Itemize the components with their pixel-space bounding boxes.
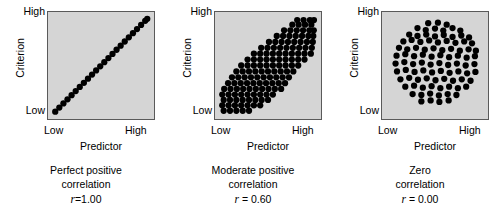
panel-perfect-positive: High Low Low High Criterion Predictor Pe… <box>0 0 167 212</box>
caption-r-value: r=1.00 <box>10 192 162 206</box>
y-axis-title: Criterion <box>14 16 26 100</box>
scatter-points-moderate-positive <box>215 12 321 119</box>
r-symbol: r <box>402 193 406 205</box>
caption-r-value: r = 0.60 <box>177 192 329 206</box>
y-tick-low: Low <box>26 104 45 116</box>
scatter-plot-zero-correlation <box>381 11 489 120</box>
x-tick-low: Low <box>44 124 63 136</box>
caption-line-2: correlation <box>10 177 162 191</box>
panel-zero-correlation: High Low Low High Criterion Predictor Ze… <box>334 0 501 212</box>
y-tick-low: Low <box>193 104 212 116</box>
x-tick-high: High <box>292 124 314 136</box>
scatter-points-perfect-positive <box>48 12 154 119</box>
r-number: =1.00 <box>75 193 102 205</box>
panel-caption-zero-correlation: Zero correlation r = 0.00 <box>344 163 496 206</box>
caption-line-1: Zero <box>344 163 496 177</box>
r-symbol: r <box>235 193 239 205</box>
x-axis-title: Predictor <box>47 140 155 152</box>
scatter-plot-moderate-positive <box>214 11 322 120</box>
caption-line-2: correlation <box>177 177 329 191</box>
caption-line-1: Perfect positive <box>10 163 162 177</box>
r-number: = 0.60 <box>242 193 272 205</box>
caption-line-1: Moderate positive <box>177 163 329 177</box>
scatter-plot-perfect-positive <box>47 11 155 120</box>
x-tick-low: Low <box>378 124 397 136</box>
y-axis-title: Criterion <box>348 16 360 100</box>
panel-caption-perfect-positive: Perfect positive correlation r=1.00 <box>10 163 162 206</box>
y-tick-high: High <box>357 5 379 17</box>
panel-moderate-positive: High Low Low High Criterion Predictor Mo… <box>167 0 334 212</box>
y-tick-high: High <box>190 5 212 17</box>
correlation-scatterplots-figure: High Low Low High Criterion Predictor Pe… <box>0 0 501 212</box>
y-tick-low: Low <box>360 104 379 116</box>
x-tick-low: Low <box>211 124 230 136</box>
panel-caption-moderate-positive: Moderate positive correlation r = 0.60 <box>177 163 329 206</box>
x-axis-title: Predictor <box>381 140 489 152</box>
caption-line-2: correlation <box>344 177 496 191</box>
x-tick-high: High <box>125 124 147 136</box>
r-number: = 0.00 <box>409 193 439 205</box>
y-axis-title: Criterion <box>181 16 193 100</box>
caption-r-value: r = 0.00 <box>344 192 496 206</box>
x-axis-title: Predictor <box>214 140 322 152</box>
y-tick-high: High <box>23 5 45 17</box>
scatter-points-zero-correlation <box>382 12 488 119</box>
x-tick-high: High <box>459 124 481 136</box>
